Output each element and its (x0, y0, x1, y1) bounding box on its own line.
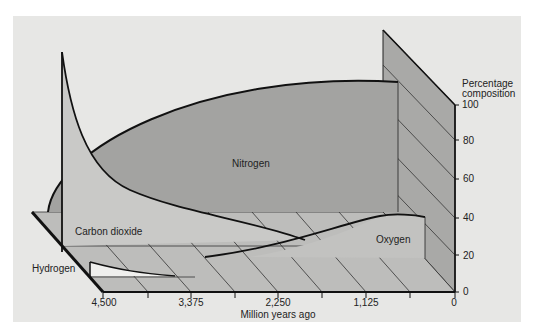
y-axis-title-line2: composition (462, 88, 515, 99)
x-tick-label: 3,375 (178, 297, 203, 308)
y-tick-label: 60 (463, 173, 475, 184)
x-tick-label: 0 (451, 297, 457, 308)
y-tick-label: 0 (463, 286, 469, 297)
hydrogen-label: Hydrogen (32, 263, 75, 274)
y-tick-label: 20 (463, 250, 475, 261)
x-tick-label: 4,500 (91, 297, 116, 308)
y-tick-label: 80 (463, 135, 475, 146)
y-tick-label: 40 (463, 212, 475, 223)
atmosphere-composition-chart: 4,500 3,375 2,250 1,125 0 Million years … (0, 0, 539, 336)
carbon-dioxide-label: Carbon dioxide (75, 226, 143, 237)
nitrogen-label: Nitrogen (232, 158, 270, 169)
x-tick-label: 2,250 (265, 297, 290, 308)
x-tick-label: 1,125 (353, 297, 378, 308)
x-axis-title: Million years ago (240, 309, 315, 320)
y-tick-label: 100 (462, 99, 479, 110)
oxygen-label: Oxygen (376, 234, 410, 245)
